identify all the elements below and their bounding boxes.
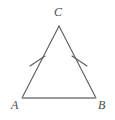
vertex-label-a: A [11,99,18,111]
tick-mark-left-icon [30,56,45,66]
vertex-label-c: C [54,6,62,18]
side-CA [22,26,59,98]
triangle-figure: C A B [0,0,115,120]
vertex-label-b: B [98,99,105,111]
tick-mark-right-icon [72,56,87,66]
side-CB [59,26,96,98]
